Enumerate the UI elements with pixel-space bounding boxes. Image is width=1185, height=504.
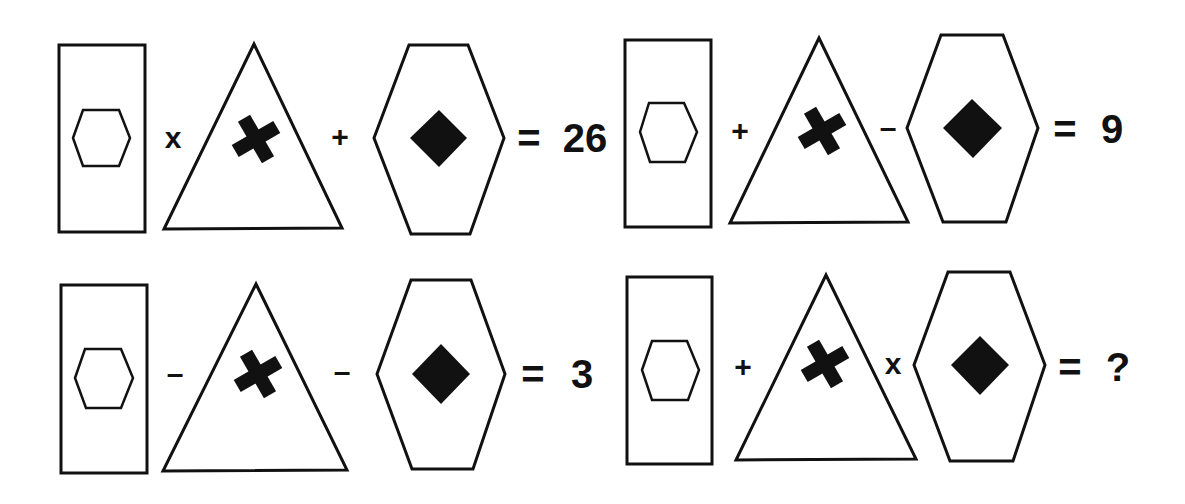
triangle-with-cross [163, 284, 347, 471]
operator-2: + [331, 120, 349, 153]
hexagon-with-diamond [914, 272, 1045, 461]
equals-sign: = [517, 116, 540, 160]
operator-1: – [167, 357, 184, 390]
hexagon-with-diamond [374, 45, 504, 234]
rectangle-with-hexagon [625, 40, 711, 227]
triangle-with-cross [164, 44, 342, 229]
operator-1: + [734, 350, 752, 383]
operator-2: – [334, 355, 351, 388]
result-value: 26 [563, 116, 608, 160]
hexagon-with-diamond [907, 35, 1038, 222]
rectangle-with-hexagon [627, 277, 712, 464]
puzzle-canvas: x + = 26 + – [0, 0, 1185, 504]
result-value: ? [1106, 345, 1130, 389]
equation-1: x + = 26 [59, 44, 607, 234]
operator-1: + [731, 114, 749, 147]
equals-sign: = [521, 352, 544, 396]
operator-2: x [885, 347, 902, 380]
result-value: 9 [1101, 107, 1123, 151]
equation-3: – – = 3 [61, 280, 593, 473]
operator-2: – [880, 111, 897, 144]
equals-sign: = [1053, 107, 1076, 151]
operator-1: x [165, 121, 182, 154]
rectangle-with-hexagon [59, 45, 145, 232]
rectangle-with-hexagon [61, 285, 147, 473]
hexagon-with-diamond [377, 280, 505, 469]
equation-2: + – = 9 [625, 35, 1123, 227]
equation-4: + x = ? [627, 272, 1130, 464]
equals-sign: = [1058, 345, 1081, 389]
result-value: 3 [571, 352, 593, 396]
